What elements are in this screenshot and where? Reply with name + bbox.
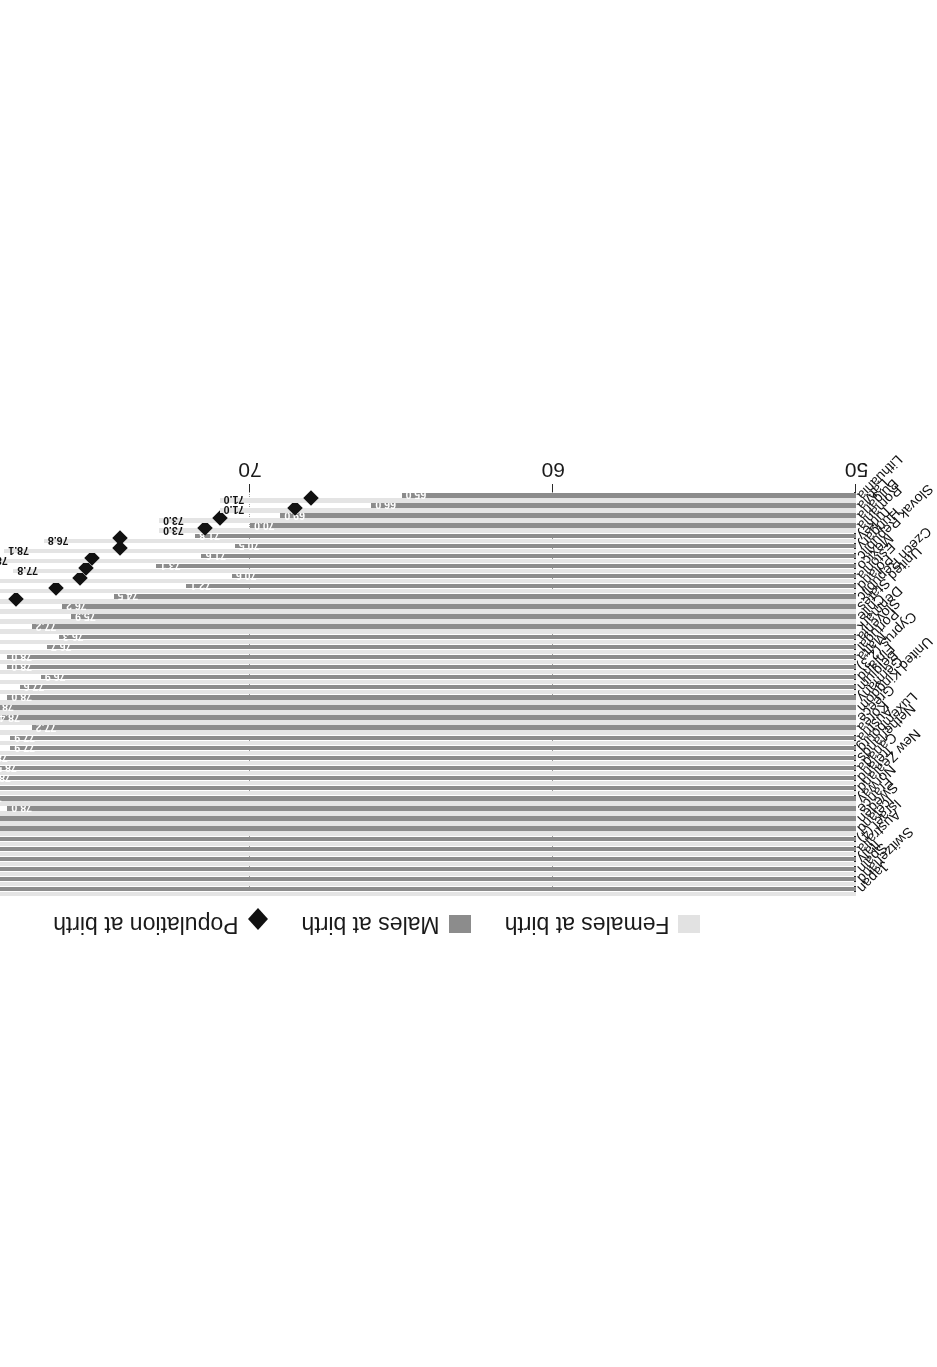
bar-males: 79.5 bbox=[0, 816, 857, 820]
bar-males: 76.2 bbox=[0, 604, 857, 608]
bar-rect-females: 83.0 bbox=[0, 700, 857, 704]
bar-rect-females: 80.5 bbox=[0, 579, 857, 583]
bar-males: 78.0 bbox=[0, 695, 857, 699]
bar-rect-males: 78.0 bbox=[7, 665, 856, 669]
bar-males: 79.5 bbox=[0, 826, 857, 830]
bar-females: 84.6 bbox=[0, 862, 857, 866]
bar-females: 81.1 bbox=[0, 609, 857, 613]
bar-males: 79.6 bbox=[0, 887, 857, 891]
bar-females: 83.5 bbox=[0, 751, 857, 755]
bar-rect-males: 78.4 bbox=[0, 715, 857, 719]
bar-females: 71.0 bbox=[0, 498, 857, 502]
bar-males: 77.9 bbox=[0, 746, 857, 750]
bar-females: 71.0 bbox=[0, 508, 857, 512]
bar-rect-females: 83.2 bbox=[0, 781, 857, 785]
bar-rect-females: 85.3 bbox=[0, 872, 857, 876]
bar-rect-males: 66.0 bbox=[371, 503, 856, 507]
legend-item-population: Population at birth bbox=[53, 911, 267, 938]
bar-rect-females: 83.3 bbox=[0, 801, 857, 805]
bar-rect-males: 78.7 bbox=[0, 776, 857, 780]
bar-females: 80.5 bbox=[0, 579, 857, 583]
bar-males: 74.5 bbox=[0, 594, 857, 598]
bar-rect-males: 76.3 bbox=[59, 635, 857, 639]
females-swatch-icon bbox=[679, 916, 701, 934]
bar-males: 79.0 bbox=[0, 796, 857, 800]
bar-males: 79.7 bbox=[0, 837, 857, 841]
bar-females: 83.6 bbox=[0, 842, 857, 846]
bar-males: 77.9 bbox=[0, 736, 857, 740]
bar-males: 71.8 bbox=[0, 534, 857, 538]
bar-males: 75.9 bbox=[0, 614, 857, 618]
legend-label-males: Males at birth bbox=[302, 911, 440, 938]
bar-rect-females: 82.8 bbox=[0, 720, 857, 724]
bar-females: 77.8 bbox=[0, 569, 857, 573]
bar-rect-males: 78.0 bbox=[7, 655, 856, 659]
bar-rect-males: 79.7 bbox=[0, 837, 857, 841]
bar-males: 79.1 bbox=[0, 786, 857, 790]
bar-females: 78.1 bbox=[0, 549, 857, 553]
bar-rect-males: 79.4 bbox=[0, 857, 857, 861]
bar-males: 65.0 bbox=[0, 493, 857, 497]
bar-males: 70.0 bbox=[0, 523, 857, 527]
bar-females: 83.5 bbox=[0, 741, 857, 745]
bar-females: 82.8 bbox=[0, 720, 857, 724]
bar-males: 79.5 bbox=[0, 847, 857, 851]
bar-males: 66.0 bbox=[0, 503, 857, 507]
bar-rect-males: 79.5 bbox=[0, 826, 857, 830]
bar-rect-females: 82.8 bbox=[0, 791, 857, 795]
bar-rect-females: 82.6 bbox=[0, 710, 857, 714]
bar-rect-females: 83.5 bbox=[0, 831, 857, 835]
bar-males: 71.6 bbox=[0, 554, 857, 558]
bar-rect-females: 83.5 bbox=[0, 751, 857, 755]
bar-rect-females: 84.6 bbox=[0, 862, 857, 866]
plot-area: 5060708090 86.479.684.980.385.379.184.67… bbox=[0, 493, 857, 897]
bar-males: 78.4 bbox=[0, 715, 857, 719]
bar-rect-males: 79.5 bbox=[0, 816, 857, 820]
bar-females: 84.0 bbox=[0, 852, 857, 856]
bar-females: 83.3 bbox=[0, 801, 857, 805]
bar-females: 78.8 bbox=[0, 559, 857, 563]
chart-figure: Females at birth Males at birth Populati… bbox=[0, 417, 937, 951]
bar-males: 77.2 bbox=[0, 725, 857, 729]
bar-males: 76.7 bbox=[0, 645, 857, 649]
bar-females: 81.4 bbox=[0, 629, 857, 633]
bar-rect-males: 76.7 bbox=[47, 645, 857, 649]
bar-rect-females: 76.8 bbox=[44, 539, 857, 543]
bar-rect-females: 83.6 bbox=[0, 842, 857, 846]
bar-rect-males: 78.5 bbox=[0, 766, 857, 770]
bar-males: 76.3 bbox=[0, 635, 857, 639]
bar-females: 82.0 bbox=[0, 660, 857, 664]
bar-rect-males: 80.3 bbox=[0, 877, 857, 881]
bar-males: 78.8 bbox=[0, 756, 857, 760]
males-swatch-icon bbox=[449, 916, 471, 934]
bar-rect-males: 73.1 bbox=[156, 564, 857, 568]
axis-tick-label: 50 bbox=[845, 459, 868, 483]
bar-females: 83.0 bbox=[0, 700, 857, 704]
chart-legend: Females at birth Males at birth Populati… bbox=[53, 905, 700, 945]
bar-rect-males: 78.8 bbox=[0, 756, 857, 760]
bar-females: 84.7 bbox=[0, 811, 857, 815]
bar-rect-females: 84.0 bbox=[0, 852, 857, 856]
bar-rect-females: 83.1 bbox=[0, 771, 857, 775]
axis-tick bbox=[249, 485, 250, 493]
legend-item-females: Females at birth bbox=[505, 911, 701, 938]
bar-males: 72.1 bbox=[0, 584, 857, 588]
bar-rect-males: 72.1 bbox=[186, 584, 856, 588]
bar-rect-males: 77.6 bbox=[20, 685, 857, 689]
bar-females: 83.0 bbox=[0, 690, 857, 694]
bar-rect-females: 84.7 bbox=[0, 811, 857, 815]
bar-rect-females: 82.0 bbox=[0, 670, 857, 674]
bar-rect-males: 71.8 bbox=[195, 534, 856, 538]
bar-females: 82.0 bbox=[0, 670, 857, 674]
bar-rect-females: 83.0 bbox=[0, 690, 857, 694]
bar-males: 79.4 bbox=[0, 857, 857, 861]
bar-rect-females: 73.0 bbox=[159, 518, 856, 522]
bar-rect-males: 76.9 bbox=[41, 675, 857, 679]
bar-rect-males: 76.2 bbox=[62, 604, 857, 608]
bar-rect-males: 77.2 bbox=[32, 725, 857, 729]
bar-rect-males: 65.0 bbox=[402, 493, 857, 497]
bar-females: 73.0 bbox=[0, 528, 857, 532]
bar-rect-females: 81.4 bbox=[0, 629, 857, 633]
axis-tick bbox=[552, 485, 553, 493]
